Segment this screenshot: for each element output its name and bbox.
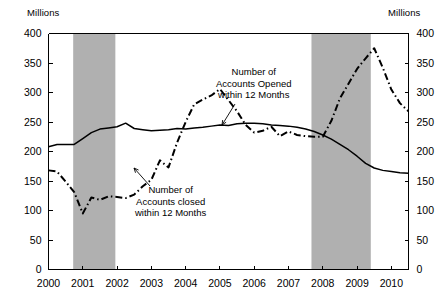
y-tick-label-left: 200 <box>24 145 42 157</box>
annotation-leader-lines <box>134 104 235 186</box>
y-axis-left-unit-label: Millions <box>27 7 59 18</box>
y-tick-label-right: 0 <box>417 263 423 275</box>
x-tick-label: 2005 <box>208 277 232 289</box>
x-tick-label: 2003 <box>140 277 164 289</box>
x-tick-label: 2002 <box>105 277 129 289</box>
chart-plot-svg: 0050501001001501502002002502503003003503… <box>0 0 442 301</box>
y-tick-label-left: 50 <box>30 234 42 246</box>
y-tick-label-left: 0 <box>36 263 42 275</box>
y-tick-label-right: 400 <box>417 27 435 39</box>
y-tick-label-right: 350 <box>417 57 435 69</box>
annotation-accounts-closed: Number of Accounts closed within 12 Mont… <box>135 184 206 219</box>
annotation-accounts-opened-line3: within 12 Months <box>216 89 292 101</box>
annotation-accounts-closed-line1: Number of <box>135 184 206 196</box>
x-tick-label: 2008 <box>311 277 335 289</box>
annotation-accounts-opened-line1: Number of <box>216 66 292 78</box>
y-axis-right-unit-label: Millions <box>388 7 420 18</box>
y-tick-label-left: 350 <box>24 57 42 69</box>
annotation-accounts-opened-line2: Accounts Opened <box>216 78 292 90</box>
y-tick-label-right: 150 <box>417 175 435 187</box>
y-tick-label-right: 250 <box>417 116 435 128</box>
y-tick-label-right: 50 <box>417 234 429 246</box>
y-tick-label-right: 100 <box>417 204 435 216</box>
y-tick-label-right: 300 <box>417 86 435 98</box>
y-tick-label-left: 250 <box>24 116 42 128</box>
y-tick-label-right: 200 <box>417 145 435 157</box>
chart-figure: Millions Millions Number of Accounts Ope… <box>0 0 442 301</box>
annotation-accounts-closed-line2: Accounts closed <box>135 196 206 208</box>
x-tick-label: 2007 <box>277 277 301 289</box>
x-tick-label: 2001 <box>71 277 95 289</box>
x-tick-label: 2004 <box>174 277 198 289</box>
annotation-accounts-closed-line3: within 12 Months <box>135 207 206 219</box>
leader-accounts-opened <box>222 104 235 125</box>
x-tick-label: 2006 <box>243 277 267 289</box>
y-tick-label-left: 100 <box>24 204 42 216</box>
x-tick-label: 2000 <box>37 277 61 289</box>
y-tick-label-left: 400 <box>24 27 42 39</box>
recession-2008 <box>311 34 370 270</box>
x-tick-label: 2010 <box>380 277 404 289</box>
y-tick-label-left: 300 <box>24 86 42 98</box>
y-tick-label-left: 150 <box>24 175 42 187</box>
recession-2001 <box>73 34 115 270</box>
x-tick-label: 2009 <box>345 277 369 289</box>
annotation-accounts-opened: Number of Accounts Opened within 12 Mont… <box>216 66 292 101</box>
